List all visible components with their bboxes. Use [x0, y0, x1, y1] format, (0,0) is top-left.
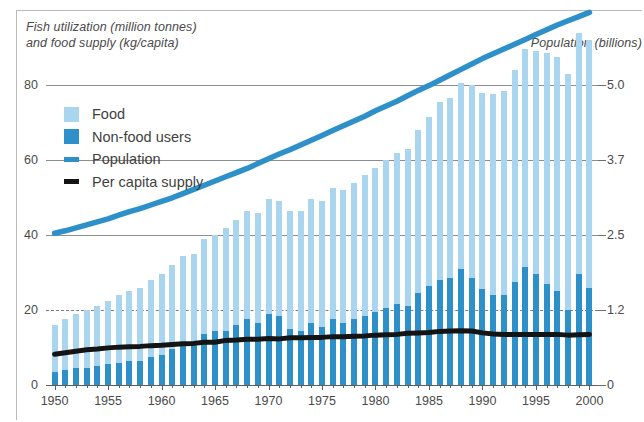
x-axis-tick-mark [183, 385, 184, 388]
x-axis-tick-mark [129, 385, 130, 388]
x-axis-tick-label: 1950 [41, 394, 69, 408]
left-axis-title-line2: and food supply (kg/capita) [26, 36, 197, 52]
x-axis-tick-mark [290, 385, 291, 388]
y2-axis-tick-label: 3.7 [607, 160, 624, 174]
y-axis-tick-label: 40 [24, 235, 38, 249]
left-axis-title: Fish utilization (million tonnes) and fo… [26, 20, 197, 51]
y-axis-tick-label: 80 [24, 85, 38, 99]
chart-legend: FoodNon-food usersPopulationPer capita s… [64, 103, 203, 193]
x-axis-tick-mark [151, 385, 152, 388]
x-axis-tick-label: 1965 [201, 394, 229, 408]
x-axis-tick-mark [418, 385, 419, 388]
x-axis-tick-mark [162, 385, 163, 390]
x-axis-tick-mark [589, 385, 590, 390]
legend-label: Non-food users [92, 129, 191, 145]
x-axis-tick-label: 1975 [308, 394, 336, 408]
x-axis-tick-label: 1960 [148, 394, 176, 408]
x-axis-tick-mark [215, 385, 216, 390]
x-axis-tick-mark [247, 385, 248, 388]
x-axis-tick-mark [440, 385, 441, 388]
x-axis-tick-mark [172, 385, 173, 388]
y2-axis-tick-mark [598, 160, 606, 161]
x-axis-tick-mark [429, 385, 430, 390]
x-axis-tick-mark [397, 385, 398, 388]
y2-axis-tick-mark [598, 235, 606, 236]
x-axis-tick-mark [108, 385, 109, 390]
y2-axis-tick-label: 2.5 [607, 235, 624, 249]
x-axis-tick-mark [515, 385, 516, 388]
x-axis-tick-mark [450, 385, 451, 388]
x-axis-tick-label: 1990 [469, 394, 497, 408]
x-axis-tick-mark [408, 385, 409, 388]
x-axis-tick-mark [579, 385, 580, 388]
x-axis-tick-mark [536, 385, 537, 390]
x-axis-tick-mark [97, 385, 98, 388]
y2-axis-tick-label: 5.0 [607, 85, 624, 99]
y-axis-tick-label: 60 [24, 160, 38, 174]
legend-swatch [64, 157, 79, 162]
chart-figure: Fish utilization (million tonnes) and fo… [0, 0, 644, 422]
y2-axis-tick-label: 0 [607, 385, 614, 399]
x-axis-tick-mark [461, 385, 462, 388]
x-axis-tick-mark [311, 385, 312, 388]
x-axis-tick-mark [279, 385, 280, 388]
x-axis-tick-mark [55, 385, 56, 390]
x-axis-tick-mark [504, 385, 505, 388]
x-axis-tick-mark [194, 385, 195, 388]
x-axis-tick-mark [547, 385, 548, 388]
x-axis-tick-mark [258, 385, 259, 388]
y2-axis-tick-mark [598, 310, 606, 311]
y-axis-tick-label: 20 [24, 310, 38, 324]
legend-swatch [64, 179, 79, 184]
x-axis-tick-label: 2000 [576, 394, 604, 408]
x-axis-tick-mark [236, 385, 237, 388]
x-axis-tick-mark [87, 385, 88, 388]
legend-swatch [64, 107, 79, 122]
per-capita-supply-line [55, 331, 590, 355]
x-axis-tick-label: 1955 [94, 394, 122, 408]
x-axis-tick-mark [472, 385, 473, 388]
x-axis-tick-mark [568, 385, 569, 388]
x-axis-tick-mark [65, 385, 66, 388]
legend-label: Food [92, 106, 125, 122]
legend-item: Population [64, 148, 203, 171]
x-axis: 1950195519601965197019751980198519901995… [46, 385, 598, 386]
legend-swatch [64, 129, 79, 144]
x-axis-tick-mark [557, 385, 558, 388]
x-axis-tick-mark [482, 385, 483, 390]
x-axis-tick-mark [386, 385, 387, 388]
x-axis-tick-mark [333, 385, 334, 388]
x-axis-tick-mark [322, 385, 323, 390]
legend-item: Per capita supply [64, 171, 203, 194]
x-axis-tick-mark [375, 385, 376, 390]
x-axis-tick-mark [493, 385, 494, 388]
x-axis-tick-mark [365, 385, 366, 388]
x-axis-tick-mark [119, 385, 120, 388]
y-axis-tick-label: 0 [31, 385, 38, 399]
x-axis-tick-label: 1980 [362, 394, 390, 408]
x-axis-tick-mark [76, 385, 77, 388]
x-axis-tick-mark [301, 385, 302, 388]
y2-axis-tick-mark [598, 85, 606, 86]
x-axis-tick-label: 1995 [522, 394, 550, 408]
x-axis-tick-mark [525, 385, 526, 388]
x-axis-tick-label: 1985 [415, 394, 443, 408]
legend-label: Per capita supply [92, 174, 203, 190]
legend-label: Population [92, 151, 161, 167]
x-axis-tick-label: 1970 [255, 394, 283, 408]
x-axis-tick-mark [269, 385, 270, 390]
x-axis-tick-mark [354, 385, 355, 388]
x-axis-tick-mark [343, 385, 344, 388]
y2-axis-tick-mark [598, 385, 606, 386]
left-axis-title-line1: Fish utilization (million tonnes) [26, 20, 197, 36]
legend-item: Non-food users [64, 126, 203, 149]
legend-item: Food [64, 103, 203, 126]
x-axis-tick-mark [226, 385, 227, 388]
x-axis-tick-mark [140, 385, 141, 388]
x-axis-tick-mark [204, 385, 205, 388]
y2-axis-tick-label: 1.2 [607, 310, 624, 324]
